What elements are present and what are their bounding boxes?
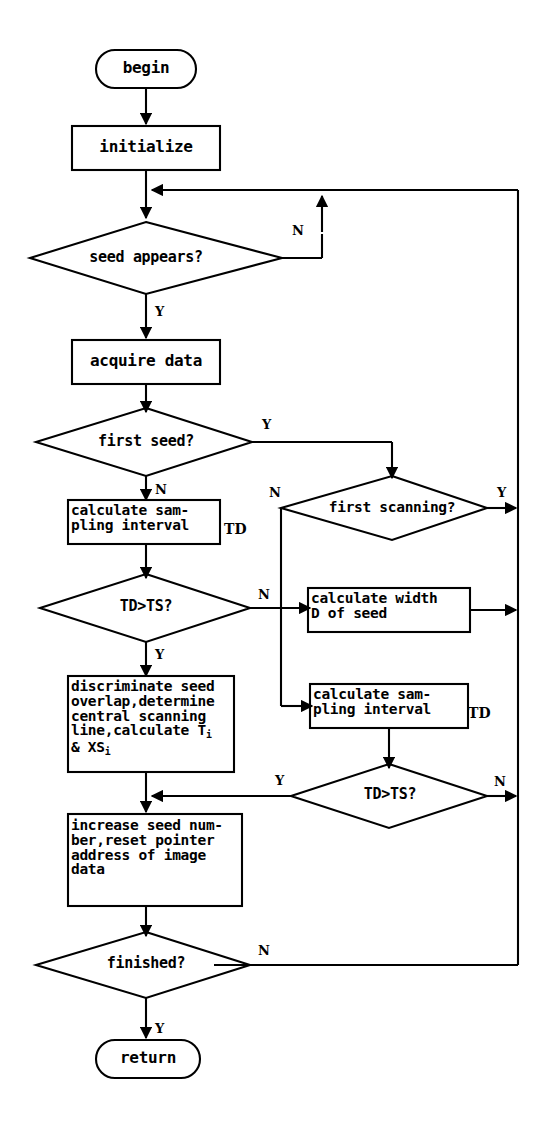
edge-label-first-scanning-n: N xyxy=(269,486,281,499)
node-calc-samp-2-label: calculate sam- pling interval xyxy=(313,687,471,717)
node-first-seed-label: first seed? xyxy=(46,434,246,449)
node-discriminate-label: discriminate seed overlap,determine cent… xyxy=(71,679,241,757)
node-return-label: return xyxy=(96,1050,200,1066)
node-discriminate-line1: discriminate seed overlap,determine cent… xyxy=(71,678,214,738)
node-td-ts-2-label: TD>TS? xyxy=(300,787,480,802)
edge-label-first-scanning-y: Y xyxy=(497,486,506,499)
edge-label-td-ts-2-n: N xyxy=(494,775,506,788)
edge-label-first-seed-y: Y xyxy=(262,418,271,431)
edge-label-td-ts-1-y: Y xyxy=(155,648,164,661)
edge-label-finished-n: N xyxy=(258,944,270,957)
edge-label-seed-appears-n: N xyxy=(292,224,304,237)
edge-label-td-ts-2-y: Y xyxy=(275,774,284,787)
node-td-ts-1-label: TD>TS? xyxy=(56,599,236,614)
node-calc-samp-2-suffix: TD xyxy=(468,705,491,721)
flowchart-canvas: begin initialize seed appears? acquire d… xyxy=(0,0,545,1129)
node-calc-samp-1-label: calculate sam- pling interval xyxy=(71,503,227,533)
node-discriminate-sub2: i xyxy=(105,746,111,757)
edge-label-first-seed-n: N xyxy=(155,483,167,496)
node-first-scanning-label: first scanning? xyxy=(300,500,484,515)
node-finished-label: finished? xyxy=(56,956,236,971)
node-calc-samp-1-suffix: TD xyxy=(224,521,247,537)
node-discriminate-line2: & XS xyxy=(71,739,105,755)
node-seed-appears-label: seed appears? xyxy=(46,250,246,265)
edge-label-finished-y: Y xyxy=(155,1022,164,1035)
edge-label-td-ts-1-n: N xyxy=(258,588,270,601)
node-acquire-label: acquire data xyxy=(72,353,220,369)
node-discriminate-sub1: i xyxy=(206,729,212,740)
node-initialize-label: initialize xyxy=(72,139,220,155)
node-calc-width-label: calculate width D of seed xyxy=(311,591,471,621)
node-increase-label: increase seed num- ber,reset pointer add… xyxy=(71,818,245,877)
edge-label-seed-appears-y: Y xyxy=(155,305,164,318)
node-begin-label: begin xyxy=(96,60,196,76)
